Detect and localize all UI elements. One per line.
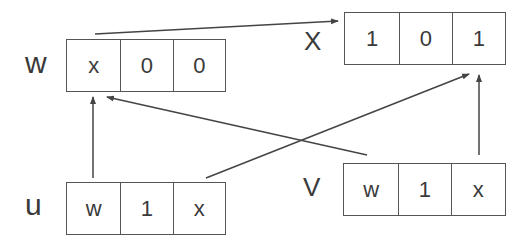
record-v-cell-0: w [344, 164, 399, 215]
record-v: w 1 x [343, 163, 506, 216]
record-x-cell-2: 1 [453, 13, 505, 64]
record-u-cell-0: w [67, 183, 121, 234]
record-x-cell-1: 0 [400, 13, 452, 64]
node-label-v: V [303, 174, 320, 200]
record-x: 1 0 1 [344, 12, 506, 65]
record-v-cell-1: 1 [399, 164, 451, 215]
node-label-w: w [25, 48, 47, 78]
record-u-cell-1: 1 [121, 183, 173, 234]
record-u: w 1 x [66, 182, 226, 235]
record-w-cell-2: 0 [174, 40, 225, 91]
edge-v-to-w [107, 97, 367, 155]
record-w: x 0 0 [66, 39, 226, 92]
record-w-cell-0: x [67, 40, 121, 91]
record-u-cell-2: x [174, 183, 225, 234]
record-v-cell-2: x [452, 164, 505, 215]
node-label-u: u [25, 190, 42, 220]
node-label-x: X [304, 28, 321, 54]
edge-w-to-x [95, 21, 338, 34]
record-w-cell-1: 0 [121, 40, 173, 91]
record-x-cell-0: 1 [345, 13, 400, 64]
